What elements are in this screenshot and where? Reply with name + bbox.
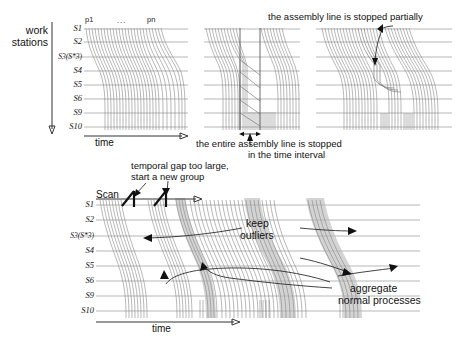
process-tick-first: p1	[85, 15, 93, 24]
panel-2-stop-interval-markers	[239, 28, 261, 146]
process-tick-ellipsis: ...	[117, 16, 126, 25]
bottom-station-label-s4: S4	[62, 246, 94, 255]
gap-note-line1: temporal gap too large,	[131, 160, 229, 172]
gap-note-line2: start a new group	[131, 171, 204, 183]
panel-2-trajectories	[206, 28, 299, 130]
station-label-s10: S10	[52, 122, 82, 131]
keep-outliers-line1: keep	[246, 218, 269, 230]
bottom-station-label-s9: S9	[62, 291, 94, 300]
bottom-time-label: time	[152, 323, 171, 334]
bottom-station-label-s2: S2	[62, 215, 94, 224]
bottom-station-label-s5: S5	[62, 261, 94, 270]
station-label-s4: S4	[52, 66, 82, 75]
panel-2-caption-line1: the entire assembly line is stopped	[196, 138, 342, 150]
aggregate-line2: normal processes	[338, 295, 421, 307]
station-label-s6: S6	[52, 94, 82, 103]
bottom-station-label-s6: S6	[62, 276, 94, 285]
panel-1-time-label: time	[95, 137, 114, 148]
bottom-station-label-s3: S3(S*3)	[50, 231, 94, 240]
bottom-station-label-s10: S10	[62, 306, 94, 315]
aggregate-line1: aggregate	[350, 283, 397, 295]
station-label-s3: S3(S*3)	[40, 52, 82, 61]
bottom-panel-gap-callout-arrows	[134, 181, 170, 197]
station-label-s1: S1	[52, 24, 82, 33]
panel-3-caption: the assembly line is stopped partially	[268, 11, 423, 23]
panel-3-trajectories	[322, 28, 438, 130]
station-label-s2: S2	[52, 37, 82, 46]
panel-1-trajectories	[86, 28, 185, 130]
process-tick-last: pn	[147, 15, 155, 24]
scan-label: Scan	[96, 189, 119, 201]
bottom-station-label-s1: S1	[62, 200, 94, 209]
panel-3-gridlines	[316, 29, 452, 127]
panel-1-gridlines	[66, 29, 188, 127]
station-label-s9: S9	[52, 108, 82, 117]
keep-outliers-line2: outliers	[240, 230, 274, 242]
figure-root: work stations	[0, 0, 456, 341]
station-label-s5: S5	[52, 80, 82, 89]
panel-2-caption-line2: in the time interval	[248, 149, 325, 161]
